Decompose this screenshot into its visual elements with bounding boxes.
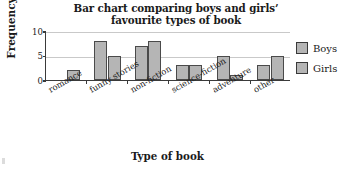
x-tick-mark: [250, 80, 251, 84]
chart-title-line-1: Bar chart comparing boys and girls’: [74, 2, 279, 14]
legend: Boys Girls: [296, 38, 360, 78]
legend-label-girls: Girls: [313, 63, 337, 74]
bar-boys-funny-stories: [94, 41, 107, 80]
chart-title: Bar chart comparing boys and girls’ favo…: [42, 2, 310, 26]
x-tick-mark: [168, 80, 169, 84]
x-axis-title: Type of book: [45, 150, 290, 162]
legend-item-boys: Boys: [296, 38, 360, 58]
legend-item-girls: Girls: [296, 58, 360, 78]
legend-swatch-boys: [296, 42, 308, 54]
y-tick-mark: [43, 31, 46, 32]
y-tick-mark: [43, 56, 46, 57]
legend-swatch-girls: [296, 62, 308, 74]
chart-title-line-2: favourite types of book: [111, 14, 241, 26]
bar-girls-other: [271, 56, 284, 81]
y-tick-mark: [43, 80, 46, 81]
y-tick-label: 0: [38, 77, 43, 86]
y-tick-label: 10: [32, 28, 43, 37]
legend-label-boys: Boys: [313, 43, 337, 54]
page-edge-artifact: [2, 158, 5, 164]
x-tick-mark: [86, 80, 87, 84]
x-tick-mark: [209, 80, 210, 84]
y-tick-label: 5: [38, 52, 43, 61]
x-tick-mark: [127, 80, 128, 84]
y-axis-title: Frequency: [5, 0, 17, 63]
bar-chart: Bar chart comparing boys and girls’ favo…: [0, 0, 360, 176]
